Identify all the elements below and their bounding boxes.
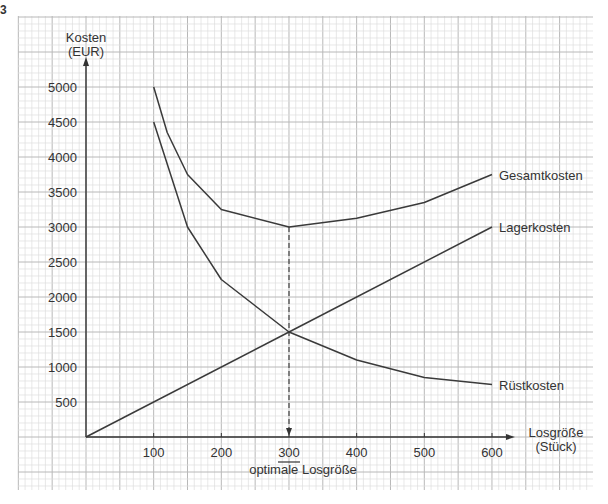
series-label: Gesamtkosten: [499, 168, 583, 183]
y-tick-label: 1000: [48, 360, 77, 375]
y-tick-label: 5000: [48, 80, 77, 95]
series-labels: GesamtkostenLagerkostenRüstkosten: [499, 168, 583, 393]
y-axis-unit: (EUR): [68, 44, 104, 59]
x-tick-label: 500: [413, 445, 435, 460]
graph-paper-grid: [18, 16, 593, 490]
x-tick-label: 200: [210, 445, 232, 460]
y-tick-label: 3500: [48, 185, 77, 200]
series-label: Lagerkosten: [499, 220, 571, 235]
x-tick-label: 100: [143, 445, 165, 460]
optimum-annotation: optimale Losgröße: [249, 227, 357, 477]
y-tick-label: 4000: [48, 150, 77, 165]
y-tick-label: 1500: [48, 325, 77, 340]
y-tick-label: 3000: [48, 220, 77, 235]
cost-chart: Kosten(EUR)Losgröße(Stück)50010001500200…: [0, 0, 608, 504]
y-tick-label: 4500: [48, 115, 77, 130]
y-tick-label: 2000: [48, 290, 77, 305]
y-axis-title: Kosten: [66, 30, 106, 45]
series-label: Rüstkosten: [499, 378, 564, 393]
optimum-arrow-icon: [286, 428, 292, 436]
optimum-label: optimale Losgröße: [249, 462, 357, 477]
x-tick-label: 300: [278, 445, 300, 460]
x-axis-title: Losgröße: [529, 425, 584, 440]
x-axis-unit: (Stück): [535, 439, 576, 454]
y-tick-label: 2500: [48, 255, 77, 270]
x-tick-label: 400: [346, 445, 368, 460]
x-tick-label: 600: [481, 445, 503, 460]
y-tick-label: 500: [55, 395, 77, 410]
